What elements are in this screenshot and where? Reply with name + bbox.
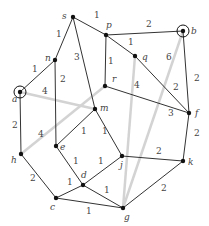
edge-n-e (55, 60, 56, 146)
vertex-label-k: k (188, 157, 193, 167)
edge-weight-s-m: 3 (74, 52, 80, 62)
edge-b-f (183, 31, 189, 113)
edge-weight-e-d: 1 (73, 156, 79, 166)
vertex-label-e: e (60, 142, 65, 152)
vertex-label-n: n (45, 53, 51, 63)
edge-weight-h-r: 4 (38, 129, 44, 139)
vertex-label-a: a (12, 94, 17, 104)
edge-s-m (73, 17, 95, 109)
vertex-label-m: m (100, 103, 109, 113)
edge-weight-d-c: 1 (67, 177, 73, 187)
edge-weight-f-k: 2 (194, 128, 200, 138)
edge-weight-h-c: 2 (30, 173, 36, 183)
edge-a-m (20, 92, 95, 109)
edge-weight-s-n: 1 (56, 29, 62, 39)
edge-weight-s-p: 1 (94, 10, 100, 20)
edge-weight-m-e: 1 (81, 126, 87, 136)
edge-weight-j-k: 2 (156, 146, 162, 156)
vertex-n (53, 58, 57, 62)
vertex-f (187, 111, 191, 115)
vertex-label-s: s (62, 11, 67, 21)
vertex-label-c: c (50, 202, 55, 212)
vertex-a (18, 90, 22, 94)
edge-weight-r-f: 3 (168, 108, 174, 118)
edge-b-g (123, 31, 183, 208)
edge-weight-k-g: 2 (161, 183, 167, 193)
edge-m-j (95, 109, 122, 156)
edge-p-r (105, 35, 106, 86)
edge-h-c (21, 154, 56, 198)
vertex-g (121, 206, 125, 210)
edge-weight-b-f: 2 (194, 73, 200, 83)
edge-weight-p-r: 1 (108, 56, 114, 66)
edge-j-k (122, 156, 183, 161)
edge-weight-p-q: 1 (128, 37, 134, 47)
edge-weight-q-g: 4 (134, 80, 140, 90)
vertex-q (133, 54, 137, 58)
vertex-c (54, 196, 58, 200)
vertex-label-q: q (142, 52, 148, 62)
edge-weight-n-a: 1 (32, 64, 38, 74)
vertex-label-h: h (11, 155, 17, 165)
vertex-label-r: r (112, 74, 117, 84)
edge-weight-b-g: 6 (166, 52, 172, 62)
edge-s-p (73, 17, 106, 35)
vertex-label-f: f (194, 108, 200, 118)
vertex-label-d: d (81, 170, 87, 180)
edge-m-e (56, 109, 95, 146)
vertex-label-b: b (191, 26, 197, 36)
vertex-p (104, 33, 108, 37)
vertex-b (181, 29, 185, 33)
edge-weight-d-g: 1 (104, 185, 110, 195)
vertex-label-p: p (106, 20, 112, 30)
vertex-d (81, 183, 85, 187)
edge-q-g (123, 56, 135, 208)
vertex-r (103, 84, 107, 88)
vertex-m (93, 107, 97, 111)
edge-weight-q-f: 2 (173, 82, 179, 92)
vertex-j (120, 154, 124, 158)
vertex-label-g: g (124, 212, 130, 222)
vertex-h (19, 152, 23, 156)
edge-p-b (106, 31, 183, 35)
vertex-e (54, 144, 58, 148)
vertex-s (71, 15, 75, 19)
edge-weight-m-j: 1 (102, 126, 108, 136)
vertex-label-j: j (118, 160, 123, 170)
edge-weight-a-m: 4 (42, 86, 48, 96)
edge-weight-c-g: 1 (86, 206, 92, 216)
edge-f-k (183, 113, 189, 161)
edge-weight-a-h: 2 (12, 120, 18, 130)
edge-weight-n-e: 2 (60, 74, 66, 84)
graph-diagram: 113211223122112122111124446 spbnqarmfehj… (0, 0, 209, 226)
vertex-k (181, 159, 185, 163)
edge-weight-p-b: 2 (146, 19, 152, 29)
edge-a-h (20, 92, 21, 154)
edge-weight-j-d: 1 (98, 156, 104, 166)
